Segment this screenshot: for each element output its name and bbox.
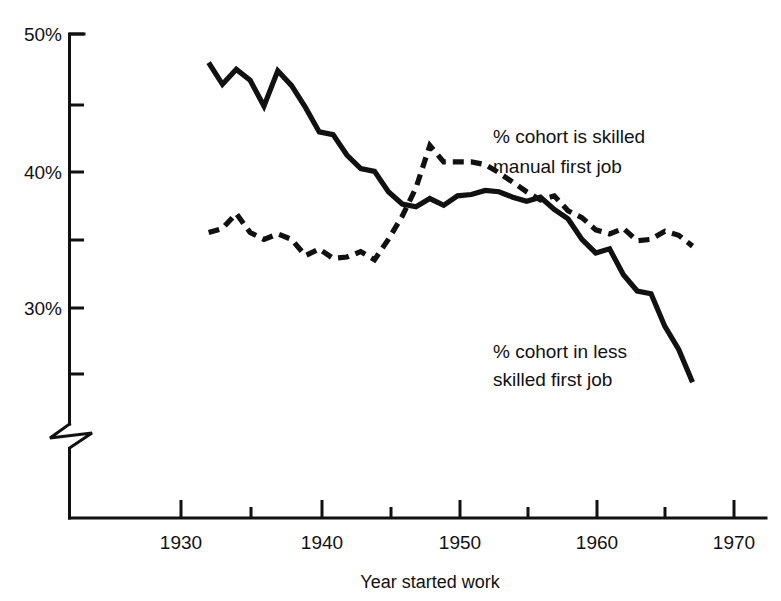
annotation-less-skilled: % cohort in less skilled first job xyxy=(493,341,627,390)
x-ticks xyxy=(181,500,734,518)
x-axis-title: Year started work xyxy=(360,572,500,592)
y-tick-label-40: 40% xyxy=(24,162,62,183)
x-tick-label-1930: 1930 xyxy=(160,532,202,553)
y-tick-label-30: 30% xyxy=(24,298,62,319)
annotation-skilled-manual: % cohort is skilled manual first job xyxy=(493,126,645,177)
annotation-less-skilled-line2: skilled first job xyxy=(493,369,612,390)
annotation-skilled-manual-line2: manual first job xyxy=(493,156,622,177)
y-tick-label-50: 50% xyxy=(24,24,62,45)
annotation-less-skilled-line1: % cohort in less xyxy=(493,341,627,362)
x-tick-label-1970: 1970 xyxy=(713,532,755,553)
y-axis-break-symbol xyxy=(50,424,92,518)
line-chart-canvas: 50% 40% 30% 1930 1940 1950 1960 1970 Yea… xyxy=(0,0,781,601)
x-tick-label-1950: 1950 xyxy=(439,532,481,553)
series-less-skilled-first-job xyxy=(209,63,693,383)
x-tick-label-1940: 1940 xyxy=(301,532,343,553)
y-ticks xyxy=(69,34,84,374)
annotation-skilled-manual-line1: % cohort is skilled xyxy=(493,126,645,147)
chart-figure: 50% 40% 30% 1930 1940 1950 1960 1970 Yea… xyxy=(0,0,781,601)
y-axis-upper xyxy=(70,34,85,424)
x-tick-label-1960: 1960 xyxy=(576,532,618,553)
